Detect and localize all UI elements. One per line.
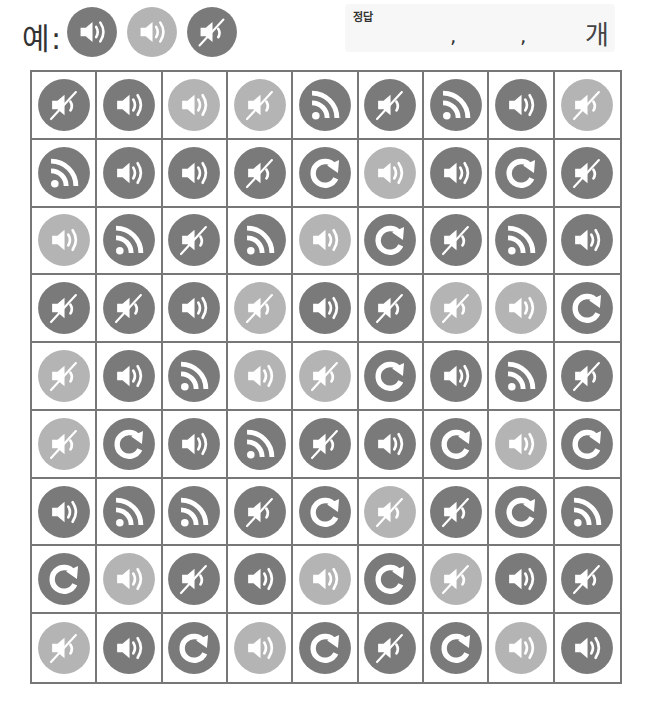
speaker-icon [233,349,287,403]
grid-cell-r5-c5[interactable] [293,343,358,411]
grid-cell-r4-c7[interactable] [424,275,489,343]
grid-cell-r2-c1[interactable] [32,140,97,208]
grid-cell-r1-c2[interactable] [97,72,162,140]
grid-cell-r7-c1[interactable] [32,479,97,547]
grid-cell-r8-c5[interactable] [293,546,358,614]
icon-grid [30,70,622,684]
grid-cell-r4-c1[interactable] [32,275,97,343]
speaker-icon [102,552,156,606]
grid-cell-r4-c2[interactable] [97,275,162,343]
grid-cell-r6-c4[interactable] [228,411,293,479]
grid-cell-r5-c4[interactable] [228,343,293,411]
grid-cell-r8-c6[interactable] [359,546,424,614]
grid-cell-r4-c3[interactable] [163,275,228,343]
grid-cell-r1-c6[interactable] [359,72,424,140]
grid-cell-r7-c7[interactable] [424,479,489,547]
grid-cell-r9-c9[interactable] [555,614,620,682]
mute-icon [102,281,156,335]
mute-icon [233,78,287,132]
answer-box[interactable]: 정답 , , 개 [345,4,615,52]
grid-cell-r2-c2[interactable] [97,140,162,208]
grid-cell-r6-c6[interactable] [359,411,424,479]
grid-cell-r3-c9[interactable] [555,208,620,276]
grid-cell-r1-c4[interactable] [228,72,293,140]
grid-cell-r4-c5[interactable] [293,275,358,343]
grid-cell-r4-c8[interactable] [489,275,554,343]
grid-cell-r7-c8[interactable] [489,479,554,547]
grid-cell-r3-c7[interactable] [424,208,489,276]
grid-cell-r9-c7[interactable] [424,614,489,682]
speaker-icon [298,281,352,335]
grid-cell-r1-c3[interactable] [163,72,228,140]
grid-cell-r5-c7[interactable] [424,343,489,411]
grid-cell-r5-c2[interactable] [97,343,162,411]
mute-icon [429,281,483,335]
rss-icon [167,485,221,539]
mute-icon [560,552,614,606]
grid-cell-r2-c7[interactable] [424,140,489,208]
grid-cell-r2-c3[interactable] [163,140,228,208]
grid-cell-r2-c8[interactable] [489,140,554,208]
grid-cell-r4-c9[interactable] [555,275,620,343]
refresh-icon [494,146,548,200]
grid-cell-r9-c8[interactable] [489,614,554,682]
grid-cell-r1-c1[interactable] [32,72,97,140]
grid-cell-r6-c3[interactable] [163,411,228,479]
speaker-icon [102,78,156,132]
grid-cell-r2-c9[interactable] [555,140,620,208]
grid-cell-r5-c1[interactable] [32,343,97,411]
grid-cell-r4-c4[interactable] [228,275,293,343]
grid-cell-r7-c5[interactable] [293,479,358,547]
grid-cell-r3-c1[interactable] [32,208,97,276]
grid-cell-r5-c8[interactable] [489,343,554,411]
grid-cell-r5-c6[interactable] [359,343,424,411]
grid-cell-r9-c4[interactable] [228,614,293,682]
grid-cell-r9-c3[interactable] [163,614,228,682]
refresh-icon [167,621,221,675]
grid-cell-r3-c4[interactable] [228,208,293,276]
grid-cell-r1-c7[interactable] [424,72,489,140]
grid-cell-r7-c3[interactable] [163,479,228,547]
grid-cell-r6-c2[interactable] [97,411,162,479]
grid-cell-r6-c9[interactable] [555,411,620,479]
grid-cell-r1-c8[interactable] [489,72,554,140]
grid-cell-r9-c1[interactable] [32,614,97,682]
speaker-icon [560,213,614,267]
speaker-icon [363,146,417,200]
mute-icon [37,349,91,403]
grid-cell-r9-c2[interactable] [97,614,162,682]
grid-cell-r8-c9[interactable] [555,546,620,614]
grid-cell-r7-c4[interactable] [228,479,293,547]
grid-cell-r1-c9[interactable] [555,72,620,140]
grid-cell-r7-c2[interactable] [97,479,162,547]
grid-cell-r4-c6[interactable] [359,275,424,343]
speaker-icon [126,6,178,58]
grid-cell-r5-c9[interactable] [555,343,620,411]
grid-cell-r5-c3[interactable] [163,343,228,411]
grid-cell-r9-c5[interactable] [293,614,358,682]
speaker-icon [37,485,91,539]
grid-cell-r7-c6[interactable] [359,479,424,547]
grid-cell-r6-c8[interactable] [489,411,554,479]
grid-cell-r3-c2[interactable] [97,208,162,276]
grid-cell-r6-c1[interactable] [32,411,97,479]
grid-cell-r8-c4[interactable] [228,546,293,614]
grid-cell-r3-c8[interactable] [489,208,554,276]
speaker-icon [494,621,548,675]
grid-cell-r8-c8[interactable] [489,546,554,614]
grid-cell-r3-c3[interactable] [163,208,228,276]
grid-cell-r3-c5[interactable] [293,208,358,276]
grid-cell-r1-c5[interactable] [293,72,358,140]
grid-cell-r8-c7[interactable] [424,546,489,614]
grid-cell-r8-c3[interactable] [163,546,228,614]
grid-cell-r9-c6[interactable] [359,614,424,682]
grid-cell-r2-c4[interactable] [228,140,293,208]
grid-cell-r2-c6[interactable] [359,140,424,208]
grid-cell-r3-c6[interactable] [359,208,424,276]
grid-cell-r8-c1[interactable] [32,546,97,614]
grid-cell-r7-c9[interactable] [555,479,620,547]
grid-cell-r6-c5[interactable] [293,411,358,479]
grid-cell-r8-c2[interactable] [97,546,162,614]
grid-cell-r6-c7[interactable] [424,411,489,479]
grid-cell-r2-c5[interactable] [293,140,358,208]
